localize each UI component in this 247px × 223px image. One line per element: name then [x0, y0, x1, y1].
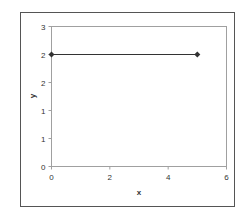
x-tick-label: 2	[108, 173, 113, 182]
line-chart: 011223 0246 x y	[0, 0, 247, 223]
x-tick-label: 4	[166, 173, 171, 182]
y-tick-label: 1	[41, 135, 46, 144]
y-tick-label: 0	[41, 163, 46, 172]
x-tick-label: 0	[49, 173, 54, 182]
y-tick-label: 1	[41, 107, 46, 116]
y-axis-title: y	[28, 93, 37, 98]
x-tick-label: 6	[224, 173, 229, 182]
y-tick-label: 3	[41, 23, 46, 32]
plot-area	[52, 27, 227, 167]
y-tick-label: 2	[41, 51, 46, 60]
x-axis-title: x	[137, 188, 142, 197]
y-tick-label: 2	[41, 79, 46, 88]
